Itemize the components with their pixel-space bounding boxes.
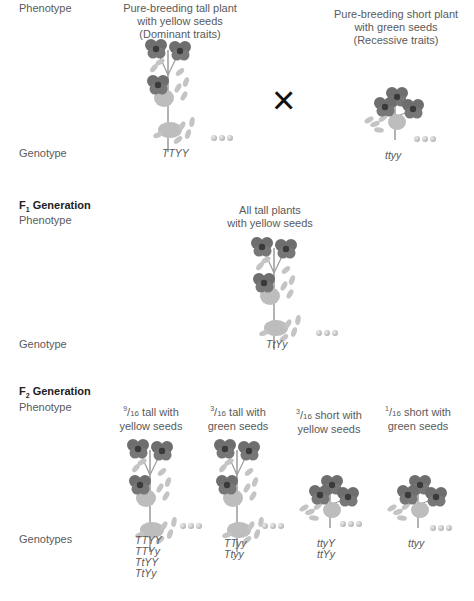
tall-plant-illustration (118, 30, 218, 156)
fraction-denominator: 16 (130, 409, 139, 418)
fraction-denominator: 16 (392, 409, 401, 418)
f1-genotype: TtYy (266, 339, 288, 350)
f2-genotypes-label: Genotypes (19, 533, 72, 545)
parental-phenotype-label: Phenotype (19, 2, 72, 14)
f2-phenotype-label: Phenotype (19, 401, 72, 413)
seeds-icon (211, 135, 233, 141)
caption-line: yellow seeds (284, 423, 374, 436)
parental-genotype-label: Genotype (19, 147, 67, 159)
f1-genotype-label: Genotype (19, 338, 67, 350)
fraction-numerator: 3 (296, 408, 300, 415)
caption-line: tall with (226, 406, 266, 418)
f2-genotype-list: TTYY TTYy TtYY TtYy (135, 535, 162, 579)
f1-plant-illustration (224, 228, 324, 354)
cross-symbol: × (272, 80, 295, 120)
parent-tall-genotype: TTYY (162, 148, 189, 159)
fraction-numerator: 1 (385, 405, 389, 412)
f2-group-caption: 9/16 tall with yellow seeds (106, 402, 196, 433)
f2-group-caption: 1/16 short with green seeds (373, 402, 463, 433)
caption-line: short with (312, 409, 362, 421)
fraction-numerator: 3 (210, 405, 214, 412)
caption-line: (Recessive traits) (316, 34, 474, 47)
seeds-icon (262, 523, 284, 529)
caption-line: All tall plants (200, 204, 340, 217)
seeds-icon (316, 330, 338, 336)
genotype: TtYy (135, 568, 162, 579)
caption-line: short with (401, 406, 451, 418)
f2-title: F2 Generation (19, 385, 91, 399)
parent-short-caption: Pure-breeding short plant with green see… (316, 8, 474, 47)
seeds-icon (430, 525, 452, 531)
genotype: Ttyy (224, 549, 247, 560)
seeds-icon (414, 136, 436, 142)
genotype: ttyy (408, 538, 424, 549)
seeds-icon (340, 521, 362, 527)
f1-title: F1 Generation (19, 199, 91, 213)
title-rest: Generation (30, 385, 91, 397)
fraction-numerator: 9 (123, 405, 127, 412)
f2-genotype-list: TTyy Ttyy (224, 538, 247, 560)
title-letter: F (19, 385, 26, 397)
fraction-denominator: 16 (217, 409, 226, 418)
f2-group-caption: 3/16 tall with green seeds (193, 402, 283, 433)
genotype: ttYy (317, 549, 335, 560)
f2-group-caption: 3/16 short with yellow seeds (284, 405, 374, 436)
caption-line: green seeds (373, 420, 463, 433)
fraction-denominator: 16 (303, 412, 312, 421)
f1-caption: All tall plants with yellow seeds (200, 204, 340, 230)
caption-line: with green seeds (316, 21, 474, 34)
caption-line: Pure-breeding tall plant (100, 2, 260, 15)
caption-line: with yellow seeds (100, 15, 260, 28)
f2-genotype-list: ttyy (408, 538, 424, 549)
caption-line: Pure-breeding short plant (316, 8, 474, 21)
parent-short-genotype: ttyy (385, 150, 401, 161)
f2-genotype-list: ttyY ttYy (317, 538, 335, 560)
caption-line: tall with (139, 406, 179, 418)
f1-phenotype-label: Phenotype (19, 214, 72, 226)
title-letter: F (19, 199, 26, 211)
title-rest: Generation (30, 199, 91, 211)
